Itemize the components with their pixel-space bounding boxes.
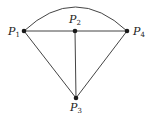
sector-diagram: P1 P2 P3 P4: [0, 0, 151, 121]
label-p1: P1: [7, 25, 20, 39]
point-p3: [74, 96, 79, 101]
label-p3: P3: [69, 101, 82, 115]
label-p4: P4: [132, 25, 145, 39]
point-p2: [73, 29, 78, 34]
segment-p4-p3: [76, 31, 127, 98]
label-p2: P2: [68, 13, 81, 27]
point-p4: [125, 29, 130, 34]
segment-p1-p3: [24, 31, 76, 98]
point-p1: [22, 29, 27, 34]
segment-p2-p3: [75, 31, 76, 98]
